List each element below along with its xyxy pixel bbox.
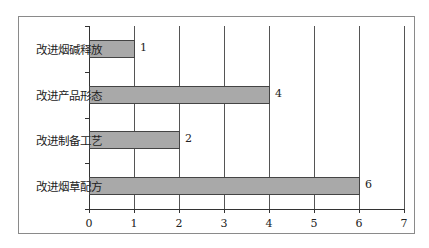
bar-value-label: 6 [365, 178, 372, 191]
y-tick [85, 72, 89, 73]
bar [89, 131, 180, 149]
bar-value-label: 1 [140, 41, 147, 54]
x-tick [269, 209, 270, 213]
bar-value-label: 2 [185, 132, 192, 145]
x-tick [404, 209, 405, 213]
x-axis-line [89, 209, 404, 210]
y-tick [85, 118, 89, 119]
category-label: 改进烟草配方 [12, 178, 102, 194]
x-tick-label: 0 [79, 217, 99, 230]
bar [89, 177, 360, 195]
x-tick-label: 1 [124, 217, 144, 230]
x-tick-label: 3 [214, 217, 234, 230]
x-tick [89, 209, 90, 213]
x-tick-label: 4 [259, 217, 279, 230]
plot-area: 012345671426 [89, 26, 404, 209]
gridline [404, 26, 405, 209]
y-tick [85, 209, 89, 210]
bar [89, 86, 270, 104]
x-tick [224, 209, 225, 213]
y-tick [85, 26, 89, 27]
x-tick [134, 209, 135, 213]
x-tick-label: 6 [349, 217, 369, 230]
x-tick [314, 209, 315, 213]
x-tick-label: 5 [304, 217, 324, 230]
category-label: 改进产品形态 [12, 87, 102, 103]
category-label: 改进制备工艺 [12, 132, 102, 148]
bar-value-label: 4 [275, 87, 282, 100]
x-tick-label: 2 [169, 217, 189, 230]
x-tick [359, 209, 360, 213]
x-tick-label: 7 [394, 217, 414, 230]
x-tick [179, 209, 180, 213]
category-label: 改进烟碱释放 [12, 41, 102, 57]
y-tick [85, 163, 89, 164]
